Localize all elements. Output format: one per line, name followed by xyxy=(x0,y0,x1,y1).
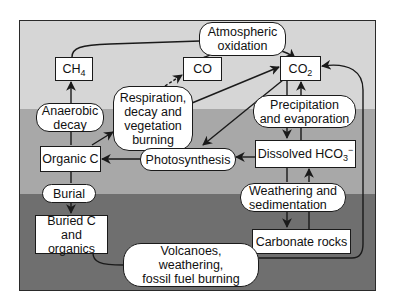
respiration-process: Respiration, decay and vegetation burnin… xyxy=(113,86,193,151)
buried-c-box: Buried C and organics xyxy=(35,215,108,254)
volcanoes-label: Volcanoes, weathering, fossil fuel burni… xyxy=(142,244,239,286)
respiration-label: Respiration, decay and vegetation burnin… xyxy=(120,91,187,147)
weathering-process: Weathering and sedimentation xyxy=(240,183,346,212)
volcanoes-process: Volcanoes, weathering, fossil fuel burni… xyxy=(123,243,259,287)
atmospheric-oxidation-process: Atmospheric oxidation xyxy=(199,22,286,56)
ch4-label: CH4 xyxy=(62,62,85,76)
co-box: CO xyxy=(183,57,222,81)
organic-c-box: Organic C xyxy=(40,146,101,172)
carbonate-rocks-label: Carbonate rocks xyxy=(256,235,348,249)
anaerobic-decay-label: Anaerobic decay xyxy=(42,104,98,132)
organic-c-label: Organic C xyxy=(42,152,98,166)
dissolved-hco3-label: Dissolved HCO3− xyxy=(258,147,354,161)
burial-process: Burial xyxy=(42,184,96,203)
ch4-box: CH4 xyxy=(55,57,93,81)
anaerobic-decay-process: Anaerobic decay xyxy=(36,103,104,132)
co2-box: CO2 xyxy=(280,56,321,81)
weathering-label: Weathering and sedimentation xyxy=(249,184,337,212)
precipitation-process: Precipitation and evaporation xyxy=(253,95,356,128)
photosynthesis-label: Photosynthesis xyxy=(146,153,231,167)
ch4-to-oxidation-line xyxy=(72,41,200,57)
organic-to-respiration-arrow xyxy=(92,132,113,145)
photosynthesis-process: Photosynthesis xyxy=(140,148,236,171)
respiration-to-co-arrow xyxy=(165,75,182,86)
co-label: CO xyxy=(193,62,212,76)
burial-label: Burial xyxy=(53,187,85,201)
dissolved-hco3-box: Dissolved HCO3− xyxy=(255,140,356,168)
atmospheric-oxidation-label: Atmospheric oxidation xyxy=(208,25,277,53)
carbonate-rocks-box: Carbonate rocks xyxy=(252,229,351,254)
buried-c-label: Buried C and organics xyxy=(36,214,107,256)
precipitation-label: Precipitation and evaporation xyxy=(260,98,350,126)
co2-label: CO2 xyxy=(289,62,313,76)
